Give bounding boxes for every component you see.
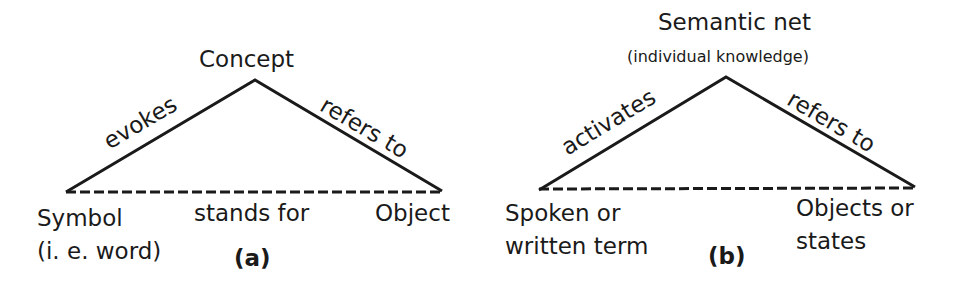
- caption-b: (b): [708, 243, 746, 269]
- spoken-or-label: Spoken or: [505, 200, 620, 226]
- diagram-b-dashed-base: [539, 188, 915, 189]
- object-label: Object: [375, 200, 450, 226]
- states-label: states: [796, 228, 866, 254]
- caption-a: (a): [234, 245, 271, 271]
- objects-or-label: Objects or: [796, 195, 914, 221]
- written-term-label: written term: [505, 233, 648, 259]
- stands-for-label: stands for: [194, 200, 309, 226]
- symbol-sublabel: (i. e. word): [37, 238, 161, 264]
- concept-label: Concept: [199, 46, 294, 72]
- individual-knowledge-label: (individual knowledge): [627, 47, 809, 67]
- symbol-label: Symbol: [37, 205, 123, 231]
- semantic-net-label: Semantic net: [658, 9, 811, 35]
